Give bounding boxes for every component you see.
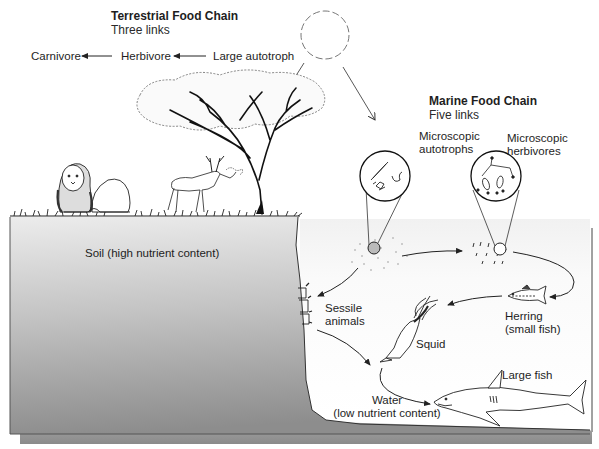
chain-label-carnivore: Carnivore	[31, 50, 81, 63]
sunlight-arrow-to-sea	[343, 67, 375, 120]
terrestrial-title: Terrestrial Food Chain	[111, 10, 238, 23]
label-sessile-animals: Sessile animals	[325, 302, 365, 328]
chain-label-large-autotroph: Large autotroph	[213, 50, 294, 63]
label-large-fish: Large fish	[502, 369, 553, 382]
sun-icon	[301, 11, 349, 59]
soil-label: Soil (high nutrient content)	[85, 247, 219, 260]
label-water: Water (low nutrient content)	[332, 394, 442, 420]
autotroph-sample-circle	[368, 242, 380, 254]
label-herring: Herring (small fish)	[505, 310, 561, 336]
deer-icon	[168, 156, 243, 212]
marine-title: Marine Food Chain	[429, 95, 537, 108]
chain-label-herbivore: Herbivore	[121, 50, 171, 63]
label-microscopic-herbivores: Microscopic herbivores	[507, 132, 568, 158]
tree-icon	[137, 70, 325, 214]
terrestrial-subtitle: Three links	[111, 24, 170, 37]
lion-icon	[58, 164, 131, 212]
label-microscopic-autotrophs: Microscopic autotrophs	[419, 130, 480, 156]
marine-subtitle: Five links	[429, 109, 479, 122]
food-chain-diagram: Terrestrial Food Chain Three links Carni…	[0, 0, 599, 449]
label-squid: Squid	[416, 338, 445, 351]
herbivore-sample-circle	[494, 243, 506, 255]
